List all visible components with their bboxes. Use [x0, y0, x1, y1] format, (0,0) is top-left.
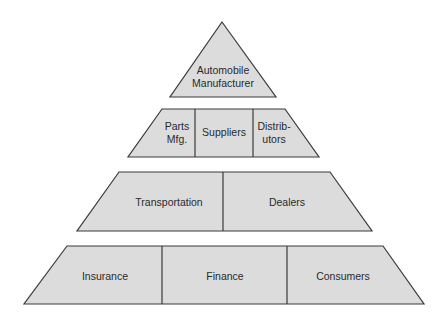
distributors-label-line1: Distrib-	[257, 120, 291, 132]
consumers-label: Consumers	[316, 270, 370, 282]
parts-mfg-label-line1: Parts	[165, 120, 190, 132]
distributors-label-line2: utors	[262, 133, 285, 145]
tier-1: Automobile Manufacturer	[170, 22, 276, 97]
finance-label: Finance	[206, 270, 244, 282]
transportation-label: Transportation	[135, 196, 202, 208]
insurance-label: Insurance	[82, 270, 128, 282]
pyramid-diagram: Automobile Manufacturer Parts Mfg. Suppl…	[0, 0, 448, 320]
suppliers-label: Suppliers	[202, 126, 246, 138]
automobile-manufacturer-label-line1: Automobile	[197, 64, 250, 76]
tier-2: Parts Mfg. Suppliers Distrib- utors	[128, 109, 319, 157]
automobile-manufacturer-label-line2: Manufacturer	[192, 77, 254, 89]
parts-mfg-label-line2: Mfg.	[167, 133, 187, 145]
tier-4: Insurance Finance Consumers	[24, 246, 424, 304]
tier-3-trapezoid	[77, 172, 372, 231]
dealers-label: Dealers	[269, 196, 305, 208]
tier-3: Transportation Dealers	[77, 172, 372, 231]
